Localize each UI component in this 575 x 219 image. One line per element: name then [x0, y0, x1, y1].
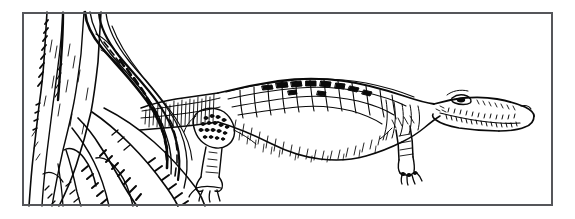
- paper-background: [0, 0, 575, 219]
- illustration-figure: Black ink pen-and-hatching drawing of a …: [0, 0, 575, 219]
- crocodile-illustration-canvas: [0, 0, 575, 219]
- eye-pupil: [457, 98, 465, 103]
